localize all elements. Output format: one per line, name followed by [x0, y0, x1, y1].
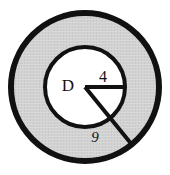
center-label-d: D — [62, 76, 74, 95]
geometry-canvas: D 4 9 — [0, 0, 170, 175]
length-label-9: 9 — [91, 129, 99, 145]
geometry-figure: D 4 9 — [0, 0, 170, 175]
length-label-4: 4 — [99, 68, 107, 85]
